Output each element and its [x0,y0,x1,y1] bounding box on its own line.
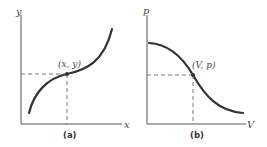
panel-a: y x (x, y) (a) [15,6,130,140]
y-axis-label: p [143,5,150,16]
curve [29,29,112,113]
y-axis-label: y [15,6,22,17]
caption: (b) [190,130,204,140]
point-label: (V, p) [192,60,216,70]
panel-b: p V (V, p) (b) [143,5,256,140]
point-label: (x, y) [58,59,81,69]
x-axis-label: V [247,119,256,130]
curve [149,43,243,113]
x-axis-label: x [124,119,130,130]
caption: (a) [63,130,77,140]
point-marker [65,72,69,76]
point-marker [191,73,195,77]
figure: y x (x, y) (a) p V (V, p) (b) [0,0,267,147]
